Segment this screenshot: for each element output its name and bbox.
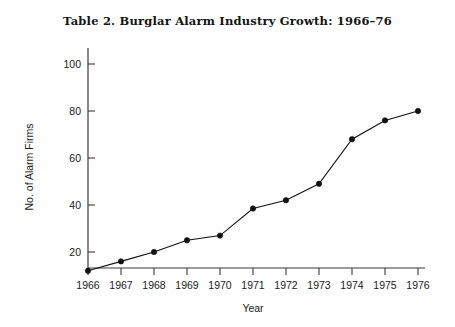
x-tick-label: 1976 [406, 279, 430, 291]
y-tick-label: 20 [69, 246, 81, 258]
x-tick-label: 1975 [373, 279, 397, 291]
y-axis-title: No. of Alarm Firms [23, 124, 35, 211]
x-tick-label: 1973 [307, 279, 331, 291]
data-point [118, 259, 123, 264]
x-axis-title: Year [242, 302, 264, 314]
y-axis-tick-labels: 100 80 60 40 20 [63, 58, 81, 258]
x-tick-label: 1968 [142, 279, 166, 291]
data-point [283, 198, 288, 203]
data-point [184, 238, 189, 243]
x-tick-label: 1967 [109, 279, 133, 291]
y-axis-ticks [88, 64, 95, 252]
x-tick-label: 1970 [208, 279, 232, 291]
chart-figure: Table 2. Burglar Alarm Industry Growth: … [0, 0, 455, 327]
x-tick-label: 1969 [175, 279, 199, 291]
y-tick-label: 100 [63, 58, 81, 70]
data-point [415, 108, 420, 113]
x-tick-label: 1971 [241, 279, 265, 291]
x-tick-label: 1974 [340, 279, 364, 291]
series-markers-alarm-firms [85, 108, 420, 273]
data-point [349, 137, 354, 142]
y-tick-label: 80 [69, 105, 81, 117]
x-axis-ticks [88, 268, 418, 275]
data-point [151, 249, 156, 254]
y-tick-label: 40 [69, 199, 81, 211]
x-tick-label: 1972 [274, 279, 298, 291]
line-chart-plot: 100 80 60 40 20 No. of Alarm Firms 1966 … [0, 0, 455, 327]
data-point [250, 206, 255, 211]
data-point [85, 268, 90, 273]
data-point [382, 118, 387, 123]
y-tick-label: 60 [69, 152, 81, 164]
x-tick-label: 1966 [76, 279, 100, 291]
x-axis-tick-labels: 1966 1967 1968 1969 1970 1971 1972 1973 … [76, 279, 430, 291]
series-line-alarm-firms [88, 111, 418, 271]
data-point [217, 233, 222, 238]
data-point [316, 181, 321, 186]
